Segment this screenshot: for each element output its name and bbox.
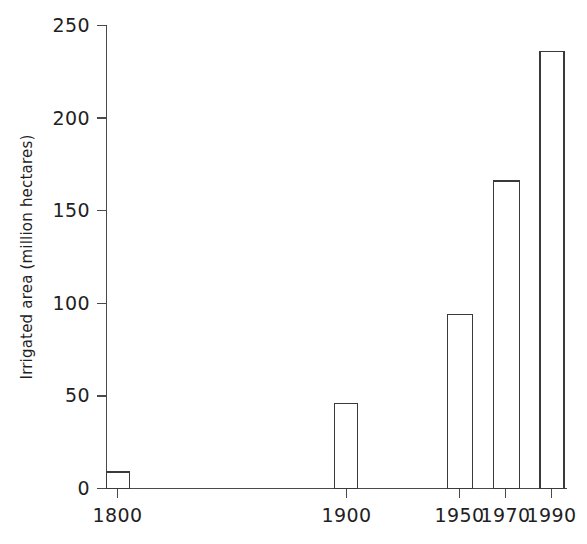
bar-1800 bbox=[107, 472, 130, 489]
y-tick-label-50: 50 bbox=[65, 384, 90, 406]
bar-1990 bbox=[540, 51, 564, 488]
bar-chart: Irrigated area (million hectares) 0 50 1… bbox=[0, 0, 587, 544]
y-tick-label-250: 250 bbox=[53, 14, 90, 36]
x-tick-label-1950: 1950 bbox=[435, 504, 485, 526]
x-axis-ticks bbox=[118, 489, 552, 499]
chart-container: Irrigated area (million hectares) 0 50 1… bbox=[0, 0, 587, 544]
bar-1950 bbox=[448, 314, 473, 488]
y-tick-label-200: 200 bbox=[53, 107, 90, 129]
y-tick-label-150: 150 bbox=[53, 199, 90, 221]
y-axis-title: Irrigated area (million hectares) bbox=[18, 135, 36, 380]
bar-1900 bbox=[335, 403, 358, 488]
x-axis-tick-labels: 1800 1900 1950 1970 1990 bbox=[93, 504, 577, 526]
bar-1970 bbox=[494, 181, 520, 488]
x-tick-label-1970: 1970 bbox=[481, 504, 531, 526]
y-axis-ticks bbox=[97, 26, 107, 489]
y-tick-label-100: 100 bbox=[53, 292, 90, 314]
y-tick-label-0: 0 bbox=[78, 477, 91, 499]
x-tick-label-1990: 1990 bbox=[527, 504, 577, 526]
y-axis-tick-labels: 0 50 100 150 200 250 bbox=[53, 14, 90, 499]
bars-group bbox=[107, 51, 565, 488]
x-tick-label-1800: 1800 bbox=[93, 504, 143, 526]
x-tick-label-1900: 1900 bbox=[322, 504, 372, 526]
